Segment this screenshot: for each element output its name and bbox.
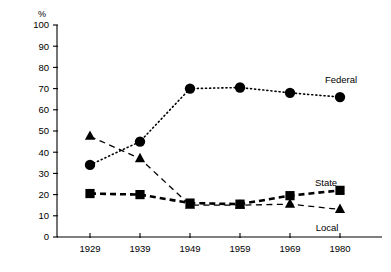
- data-point-federal-1980: [335, 92, 345, 102]
- data-point-state-1939: [135, 190, 144, 199]
- data-point-federal-1929: [85, 160, 95, 170]
- y-tick-label: 50: [38, 125, 49, 136]
- data-point-federal-1969: [285, 88, 295, 98]
- data-point-local-1939: [135, 153, 145, 162]
- x-tick-label: 1929: [79, 243, 100, 254]
- data-point-local-1980: [335, 204, 345, 213]
- series-label-state: State: [315, 177, 337, 188]
- data-point-state-1929: [85, 189, 94, 198]
- y-tick-label: 20: [38, 189, 49, 200]
- data-point-federal-1959: [235, 82, 245, 92]
- y-tick-label: 30: [38, 168, 49, 179]
- data-point-local-1929: [85, 130, 95, 139]
- y-axis-tick-labels: 0102030405060708090100: [33, 19, 49, 242]
- y-tick-label: 70: [38, 83, 49, 94]
- chart-container: % 0102030405060708090100 192919391949195…: [0, 0, 391, 272]
- y-axis-unit-label: %: [38, 9, 46, 19]
- y-tick-label: 100: [33, 19, 49, 30]
- y-tick-label: 60: [38, 104, 49, 115]
- y-tick-label: 0: [44, 231, 49, 242]
- line-chart: % 0102030405060708090100 192919391949195…: [0, 0, 391, 272]
- y-tick-label: 10: [38, 210, 49, 221]
- x-tick-label: 1959: [229, 243, 250, 254]
- y-tick-label: 40: [38, 147, 49, 158]
- x-tick-label: 1980: [329, 243, 350, 254]
- x-axis-tick-labels: 192919391949195919691980: [79, 243, 350, 254]
- x-tick-label: 1949: [179, 243, 200, 254]
- data-point-federal-1939: [135, 136, 145, 146]
- series-label-federal: Federal: [325, 74, 357, 85]
- y-tick-label: 80: [38, 62, 49, 73]
- series-label-local: Local: [316, 222, 339, 233]
- data-point-federal-1949: [185, 83, 195, 93]
- series-line-state: [90, 190, 340, 204]
- x-tick-label: 1969: [279, 243, 300, 254]
- x-tick-label: 1939: [129, 243, 150, 254]
- series-lines-group: [90, 88, 340, 210]
- series-line-federal: [90, 88, 340, 165]
- y-tick-label: 90: [38, 41, 49, 52]
